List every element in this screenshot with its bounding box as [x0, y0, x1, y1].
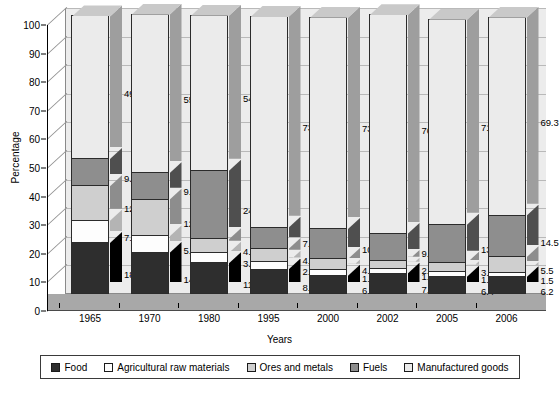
x-axis-tick-mark — [178, 303, 179, 308]
bar-segment-side-face — [467, 266, 479, 282]
bar-segment-ores-and-metals-2005[interactable] — [428, 262, 466, 271]
bar-segment-side-face — [348, 7, 360, 217]
x-axis-label-1995: 1995 — [246, 313, 292, 324]
bar-segment-side-face — [527, 7, 539, 204]
bar-segment-side-face — [467, 261, 479, 265]
x-axis-label-1980: 1980 — [186, 313, 232, 324]
bar-segment-manufactured-goods-1980[interactable] — [190, 15, 228, 170]
bar-segment-manufactured-goods-2005[interactable] — [428, 19, 466, 224]
bar-segment-food-1980[interactable] — [190, 262, 228, 294]
bar-segment-manufactured-goods-1995[interactable] — [250, 16, 288, 227]
x-axis-tick-mark — [416, 303, 417, 308]
bar-segment-side-face — [110, 5, 122, 146]
legend-swatch-icon — [247, 363, 256, 372]
y-axis-tick-80: 80 — [29, 77, 40, 88]
value-label-ores-and-metals-2006: 5.5 — [541, 265, 554, 276]
bar-segment-side-face — [170, 189, 182, 225]
bar-segment-manufactured-goods-2006[interactable] — [488, 17, 526, 215]
bar-segment-fuels-2006[interactable] — [488, 215, 526, 256]
stacked-bar-chart: Percentage Years 0102030405060708090100 … — [0, 0, 559, 394]
bar-segment-ores-and-metals-1965[interactable] — [71, 185, 109, 219]
bar-segment-food-2005[interactable] — [428, 276, 466, 294]
y-axis-tick-60: 60 — [29, 134, 40, 145]
bar-segment-side-face — [289, 251, 301, 258]
bar-stack — [488, 17, 526, 294]
x-axis-label-1970: 1970 — [127, 313, 173, 324]
bar-segment-ores-and-metals-1980[interactable] — [190, 238, 228, 251]
bar-segment-side-face — [229, 228, 241, 240]
bar-segment-manufactured-goods-1970[interactable] — [131, 14, 169, 172]
bar-segment-ores-and-metals-1995[interactable] — [250, 248, 288, 261]
legend-swatch-icon — [51, 363, 60, 372]
bar-segment-agricultural-raw-materials-1970[interactable] — [131, 235, 169, 252]
bar-segment-food-2000[interactable] — [309, 275, 347, 294]
y-axis-tick-20: 20 — [29, 248, 40, 259]
bar-segment-ores-and-metals-1970[interactable] — [131, 199, 169, 236]
x-axis-tick-mark — [238, 303, 239, 308]
legend-label: Fuels — [363, 362, 387, 373]
bar-segment-side-face — [408, 223, 420, 249]
bar-stack — [369, 14, 407, 294]
bar-segment-fuels-1980[interactable] — [190, 170, 228, 239]
bar-segment-food-1995[interactable] — [250, 269, 288, 294]
bar-segment-side-face — [289, 217, 301, 237]
bar-segment-fuels-1965[interactable] — [71, 158, 109, 185]
bar-stack — [250, 16, 288, 294]
bar-segment-agricultural-raw-materials-1965[interactable] — [71, 220, 109, 242]
bar-segment-food-2006[interactable] — [488, 276, 526, 294]
y-axis-tick-mark — [41, 139, 46, 140]
legend-label: Food — [64, 362, 87, 373]
y-axis-tick-mark — [41, 253, 46, 254]
bar-segment-fuels-1970[interactable] — [131, 172, 169, 199]
bar-stack — [309, 17, 347, 294]
bar-segment-side-face — [527, 266, 539, 282]
bar-segment-side-face — [348, 248, 360, 258]
legend-label: Ores and metals — [260, 362, 333, 373]
y-axis-tick-10: 10 — [29, 277, 40, 288]
bar-segment-side-face — [170, 225, 182, 241]
value-label-fuels-2006: 14.5 — [541, 236, 559, 247]
x-axis-label-2005: 2005 — [424, 313, 470, 324]
bar-segment-ores-and-metals-2006[interactable] — [488, 256, 526, 272]
bar-stack — [131, 14, 169, 294]
plot-area: 18.27.812.09.649.814.75.812.89.355.411.1… — [47, 8, 546, 311]
bar-segment-side-face — [467, 214, 479, 251]
bar-segment-side-face — [110, 175, 122, 208]
bar-segment-fuels-2000[interactable] — [309, 228, 347, 258]
legend-item-fuels[interactable]: Fuels — [350, 362, 387, 373]
value-label-manufactured-goods-2006: 69.3 — [541, 116, 559, 127]
bar-segment-side-face — [289, 238, 301, 250]
bar-segment-fuels-2002[interactable] — [369, 233, 407, 260]
bar-segment-fuels-2005[interactable] — [428, 224, 466, 262]
value-label-agricultural-raw-materials-2006: 1.5 — [541, 275, 554, 286]
bar-segment-side-face — [348, 218, 360, 247]
legend-item-food[interactable]: Food — [51, 362, 87, 373]
bar-segment-manufactured-goods-2000[interactable] — [309, 17, 347, 228]
bar-segment-side-face — [408, 263, 420, 282]
legend-item-manufactured-goods[interactable]: Manufactured goods — [404, 362, 508, 373]
legend-label: Manufactured goods — [417, 362, 508, 373]
y-axis-tick-mark — [41, 82, 46, 83]
bar-segment-manufactured-goods-2002[interactable] — [369, 14, 407, 233]
x-axis-tick-mark — [476, 303, 477, 308]
x-axis-tick-mark — [119, 303, 120, 308]
legend-swatch-icon — [404, 363, 413, 372]
bar-segment-agricultural-raw-materials-1980[interactable] — [190, 252, 228, 263]
bar-segment-food-2002[interactable] — [369, 273, 407, 294]
x-axis-label-1965: 1965 — [67, 313, 113, 324]
bar-segment-ores-and-metals-2002[interactable] — [369, 260, 407, 268]
legend-item-agricultural-raw-materials[interactable]: Agricultural raw materials — [104, 362, 229, 373]
bar-segment-manufactured-goods-1965[interactable] — [71, 15, 109, 157]
bar-segment-food-1965[interactable] — [71, 242, 109, 294]
bar-segment-food-1970[interactable] — [131, 252, 169, 294]
bar-segment-ores-and-metals-2000[interactable] — [309, 258, 347, 269]
legend-item-ores-and-metals[interactable]: Ores and metals — [247, 362, 333, 373]
bar-segment-side-face — [229, 252, 241, 282]
bar-stack — [190, 15, 228, 294]
bar-segment-fuels-1995[interactable] — [250, 227, 288, 248]
bar-segment-side-face — [110, 148, 122, 174]
y-axis-tick-30: 30 — [29, 220, 40, 231]
bar-segment-side-face — [467, 9, 479, 213]
bar-segment-agricultural-raw-materials-1995[interactable] — [250, 261, 288, 269]
bar-segment-side-face — [170, 162, 182, 188]
